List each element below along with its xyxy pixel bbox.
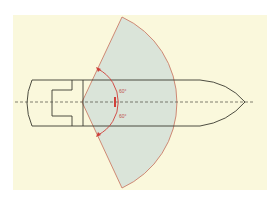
angle-center-marker	[114, 97, 116, 107]
angle-label-lower: 60°	[119, 113, 127, 119]
angle-label-upper: 60°	[119, 88, 127, 94]
sector-diagram: 60° 60°	[0, 0, 272, 197]
